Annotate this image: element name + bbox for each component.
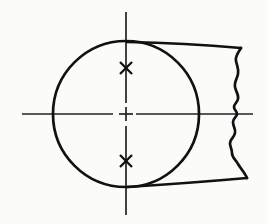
drawing-svg: [0, 0, 268, 224]
lower-tangent-line: [127, 178, 247, 187]
technical-drawing-canvas: [0, 0, 268, 224]
freehand-break-line: [230, 48, 247, 178]
upper-tangent-line: [127, 42, 241, 48]
